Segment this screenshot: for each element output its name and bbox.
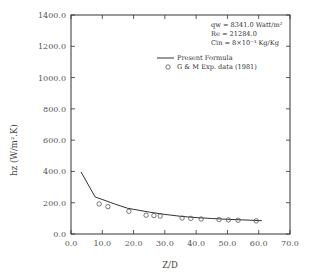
y-axis-title: hz (W/m².K) <box>9 124 19 175</box>
x-tick-label: 70.0 <box>281 239 299 248</box>
x-tick-label: 30.0 <box>156 239 174 248</box>
data-point-marker <box>127 209 131 213</box>
series-layer <box>81 172 262 223</box>
legend-qw: qw = 8341.0 Watt/m² <box>211 21 283 29</box>
series-present-formula <box>81 172 262 221</box>
legend: qw = 8341.0 Watt/m² Re = 21284.0 Cin = 8… <box>157 21 283 71</box>
data-point-marker <box>226 218 230 222</box>
chart: 0.010.020.030.040.050.060.070.0 0.0200.0… <box>0 0 309 279</box>
data-point-marker <box>152 213 156 217</box>
x-axis-title: Z/D <box>162 260 178 270</box>
data-point-marker <box>217 217 221 221</box>
y-tick-label: 600.0 <box>43 136 66 145</box>
y-tick-label: 200.0 <box>43 199 66 208</box>
x-tick-label: 60.0 <box>250 239 268 248</box>
legend-marker-icon <box>166 65 170 69</box>
y-tick-label: 800.0 <box>43 105 66 114</box>
plot-frame <box>71 15 290 234</box>
data-point-marker <box>158 214 162 218</box>
y-tick-label: 0.0 <box>53 230 66 239</box>
y-tick-label: 1000.0 <box>38 74 66 83</box>
legend-cin: Cin = 8×10⁻³ Kg/Kg <box>211 39 280 47</box>
data-point-marker <box>106 204 110 208</box>
legend-marker-label: G & M Exp. data (1981) <box>177 63 257 71</box>
y-tick-label: 1400.0 <box>38 11 66 20</box>
x-tick-label: 50.0 <box>219 239 237 248</box>
x-tick-label: 40.0 <box>187 239 205 248</box>
x-tick-label: 0.0 <box>65 239 78 248</box>
x-tick-label: 10.0 <box>93 239 111 248</box>
plot-border <box>71 15 290 234</box>
y-tick-label: 1200.0 <box>38 42 66 51</box>
y-tick-label: 400.0 <box>43 167 66 176</box>
data-point-marker <box>97 202 101 206</box>
x-axis-ticks: 0.010.020.030.040.050.060.070.0 <box>65 15 299 248</box>
legend-re: Re = 21284.0 <box>211 30 257 38</box>
legend-line-label: Present Formula <box>177 54 233 62</box>
data-point-marker <box>144 213 148 217</box>
x-tick-label: 20.0 <box>125 239 143 248</box>
